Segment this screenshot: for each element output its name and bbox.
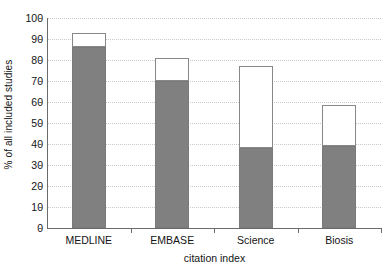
bar-segment-white[interactable] — [155, 58, 189, 81]
y-axis-tick-label: 30 — [3, 160, 43, 171]
x-axis-tick-mark — [131, 228, 132, 233]
bar-group[interactable] — [239, 66, 273, 228]
x-axis-title: citation index — [47, 252, 382, 264]
y-axis-tick-label: 40 — [3, 139, 43, 150]
bar-chart: % of all included studies 01020304050607… — [0, 0, 389, 278]
x-axis-tick-mark — [214, 228, 215, 233]
x-axis-tick-labels: MEDLINEEMBASEScienceBiosis — [47, 234, 382, 250]
x-axis-tick-mark — [298, 228, 299, 233]
bar-group[interactable] — [155, 58, 189, 228]
y-axis-tick-label: 50 — [3, 118, 43, 129]
y-axis-tick-mark — [39, 207, 43, 208]
x-axis-tick-label: EMBASE — [150, 234, 194, 247]
y-axis-tick-mark — [39, 186, 43, 187]
x-axis-tick-label: Science — [237, 234, 274, 247]
bar-segment-white[interactable] — [322, 105, 356, 146]
bar-group[interactable] — [322, 105, 356, 228]
y-axis-tick-mark — [39, 165, 43, 166]
x-axis-tick-label: Biosis — [325, 234, 353, 247]
y-axis-tick-label: 10 — [3, 202, 43, 213]
y-axis-tick-label: 80 — [3, 55, 43, 66]
y-axis-tick-mark — [39, 144, 43, 145]
y-axis-tick-label: 100 — [3, 13, 43, 24]
plot-area — [47, 18, 381, 228]
y-axis-tick-label: 20 — [3, 181, 43, 192]
bar-segment-grey[interactable] — [72, 47, 106, 228]
bar-group[interactable] — [72, 33, 106, 228]
y-axis-tick-label: 0 — [3, 223, 43, 234]
x-axis-tick-mark — [381, 228, 382, 233]
y-axis-tick-mark — [39, 102, 43, 103]
y-axis-tick-mark — [39, 39, 43, 40]
y-axis-tick-mark — [39, 228, 43, 229]
y-axis-tick-label: 70 — [3, 76, 43, 87]
y-axis-tick-label: 90 — [3, 34, 43, 45]
y-axis-tick-mark — [39, 18, 43, 19]
y-axis-tick-mark — [39, 81, 43, 82]
bar-segment-white[interactable] — [239, 66, 273, 148]
y-axis-tick-label: 60 — [3, 97, 43, 108]
bar-segment-grey[interactable] — [239, 148, 273, 228]
y-axis-tick-labels: 0102030405060708090100 — [0, 18, 43, 228]
x-axis-tick-label: MEDLINE — [65, 234, 112, 247]
bar-segment-grey[interactable] — [155, 81, 189, 228]
y-axis-tick-mark — [39, 123, 43, 124]
bar-segment-grey[interactable] — [322, 146, 356, 228]
gridline — [47, 18, 381, 19]
y-axis-line — [47, 18, 48, 229]
bar-segment-white[interactable] — [72, 33, 106, 48]
y-axis-tick-mark — [39, 60, 43, 61]
